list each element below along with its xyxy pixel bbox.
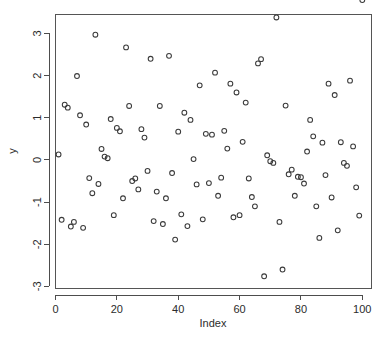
data-point — [90, 191, 95, 196]
data-point — [194, 182, 199, 187]
data-point — [305, 149, 310, 154]
data-point — [234, 90, 239, 95]
data-point — [243, 100, 248, 105]
data-point — [210, 132, 215, 137]
data-point — [246, 176, 251, 181]
data-point — [323, 173, 328, 178]
data-point — [249, 195, 254, 200]
data-point — [127, 104, 132, 109]
data-point — [59, 217, 64, 222]
y-axis: -3-2-10123 — [32, 30, 50, 291]
y-axis-tick-label: -2 — [32, 239, 44, 249]
data-point — [87, 176, 92, 181]
data-point — [228, 81, 233, 86]
data-point — [311, 134, 316, 139]
data-point — [286, 172, 291, 177]
data-point — [302, 181, 307, 186]
data-point — [56, 152, 61, 157]
data-point — [176, 129, 181, 134]
data-point — [151, 219, 156, 224]
data-point — [317, 236, 322, 241]
data-point — [154, 189, 159, 194]
data-point — [96, 182, 101, 187]
x-axis: 020406080100 — [52, 295, 371, 315]
data-point — [345, 163, 350, 168]
data-point — [274, 15, 279, 20]
data-point — [240, 139, 245, 144]
x-axis-title: Index — [200, 317, 227, 329]
data-point — [108, 117, 113, 122]
data-point — [182, 110, 187, 115]
data-point — [200, 217, 205, 222]
data-point — [222, 128, 227, 133]
data-point — [332, 93, 337, 98]
data-point — [289, 167, 294, 172]
data-point — [329, 195, 334, 200]
data-point — [78, 113, 83, 118]
data-point — [139, 127, 144, 132]
data-point — [207, 181, 212, 186]
data-point — [283, 103, 288, 108]
y-axis-tick-label: 0 — [32, 157, 44, 163]
data-point — [237, 213, 242, 218]
data-point — [348, 78, 353, 83]
data-point — [179, 212, 184, 217]
data-point — [99, 147, 104, 152]
data-point — [167, 53, 172, 58]
data-point — [338, 140, 343, 145]
scatter-plot-figure: 020406080100 -3-2-10123 Index y — [0, 0, 392, 341]
y-axis-tick-label: 3 — [32, 30, 44, 36]
data-point — [191, 157, 196, 162]
data-point — [188, 117, 193, 122]
data-point — [197, 83, 202, 88]
data-point — [253, 204, 258, 209]
data-point — [308, 117, 313, 122]
data-point — [225, 146, 230, 151]
data-point — [170, 171, 175, 176]
data-point — [142, 135, 147, 140]
data-point — [118, 129, 123, 134]
data-point — [299, 175, 304, 180]
data-point — [75, 74, 80, 79]
data-point — [121, 196, 126, 201]
data-point — [164, 196, 169, 201]
x-axis-tick-label: 100 — [353, 303, 371, 315]
data-point — [148, 56, 153, 61]
data-point — [65, 105, 70, 110]
data-points-group — [56, 0, 365, 279]
data-point — [145, 168, 150, 173]
data-point — [84, 122, 89, 127]
data-point — [93, 32, 98, 37]
data-point — [185, 224, 190, 229]
data-point — [326, 81, 331, 86]
data-point — [354, 185, 359, 190]
data-point — [157, 104, 162, 109]
data-point — [203, 131, 208, 136]
x-axis-tick-label: 40 — [172, 303, 184, 315]
y-axis-tick-label: 1 — [32, 115, 44, 121]
data-point — [320, 140, 325, 145]
plot-canvas: 020406080100 -3-2-10123 Index y — [0, 0, 392, 341]
data-point — [219, 175, 224, 180]
data-point — [314, 204, 319, 209]
data-point — [216, 193, 221, 198]
y-axis-tick-label: -1 — [32, 197, 44, 207]
y-axis-tick-label: -3 — [32, 282, 44, 292]
data-point — [68, 224, 73, 229]
x-axis-tick-label: 20 — [111, 303, 123, 315]
data-point — [213, 70, 218, 75]
data-point — [280, 267, 285, 272]
y-axis-title: y — [6, 148, 18, 154]
data-point — [351, 144, 356, 149]
data-point — [81, 225, 86, 230]
data-point — [136, 187, 141, 192]
x-axis-tick-label: 0 — [52, 303, 58, 315]
data-point — [173, 237, 178, 242]
data-point — [160, 222, 165, 227]
data-point — [335, 228, 340, 233]
y-axis-tick-label: 2 — [32, 73, 44, 79]
data-point — [231, 215, 236, 220]
data-point — [262, 274, 267, 279]
data-point — [72, 220, 77, 225]
data-point — [265, 153, 270, 158]
